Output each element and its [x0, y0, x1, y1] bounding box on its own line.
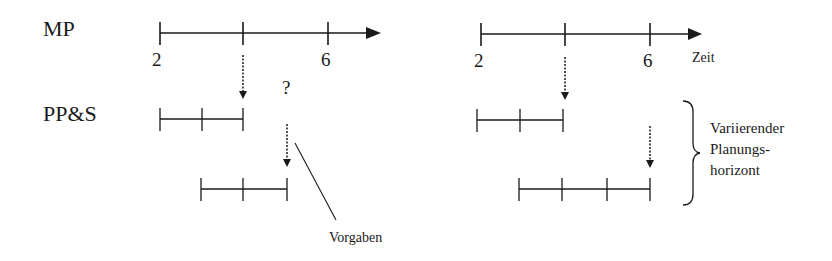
curly-brace-icon — [683, 101, 700, 205]
left-axis-tick-label-6: 6 — [321, 50, 331, 69]
left-axis-tick-label-2: 2 — [152, 50, 162, 69]
right-axis-label-zeit: Zeit — [692, 51, 715, 65]
question-mark: ? — [282, 78, 290, 97]
right-dotted-arrow-1 — [561, 57, 569, 100]
diagram-canvas — [0, 0, 832, 261]
brace-label-line3: horizont — [710, 160, 784, 181]
brace-label-line1: Variierender — [710, 118, 784, 139]
left-pps-horizon-2 — [201, 178, 287, 201]
right-axis-tick-label-6: 6 — [643, 51, 653, 70]
right-dotted-arrow-2 — [646, 126, 654, 168]
row-label-mp: MP — [43, 18, 75, 40]
brace-label-line2: Planungs- — [710, 139, 784, 160]
row-label-pps: PP&S — [43, 103, 97, 125]
left-axis-arrowhead-icon — [366, 27, 381, 39]
right-axis-tick-label-2: 2 — [474, 51, 484, 70]
left-pps-horizon-1 — [160, 108, 243, 131]
left-mp-time-axis — [160, 22, 368, 45]
annotation-vorgaben: Vorgaben — [329, 231, 382, 245]
left-dotted-arrow-1 — [239, 55, 247, 99]
right-axis-arrowhead-icon — [688, 28, 702, 40]
right-time-axis — [481, 23, 690, 46]
right-pps-horizon-2 — [519, 178, 650, 201]
brace-label: Variierender Planungs- horizont — [710, 118, 784, 181]
left-dotted-arrow-2 — [283, 124, 291, 167]
vorgaben-pointer-line — [295, 143, 336, 220]
right-pps-horizon-1 — [477, 109, 563, 132]
